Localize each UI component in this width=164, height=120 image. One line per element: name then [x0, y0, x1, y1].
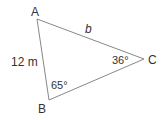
- vertex-label-b: B: [38, 102, 46, 116]
- vertex-label-a: A: [31, 5, 39, 19]
- angle-label-c: 36°: [112, 54, 129, 66]
- triangle-diagram: A B C 12 m b 65° 36°: [0, 0, 164, 120]
- angle-label-b: 65°: [51, 79, 68, 91]
- side-label-ab: 12 m: [11, 55, 38, 69]
- side-label-ac: b: [85, 22, 92, 36]
- vertex-label-c: C: [148, 53, 157, 67]
